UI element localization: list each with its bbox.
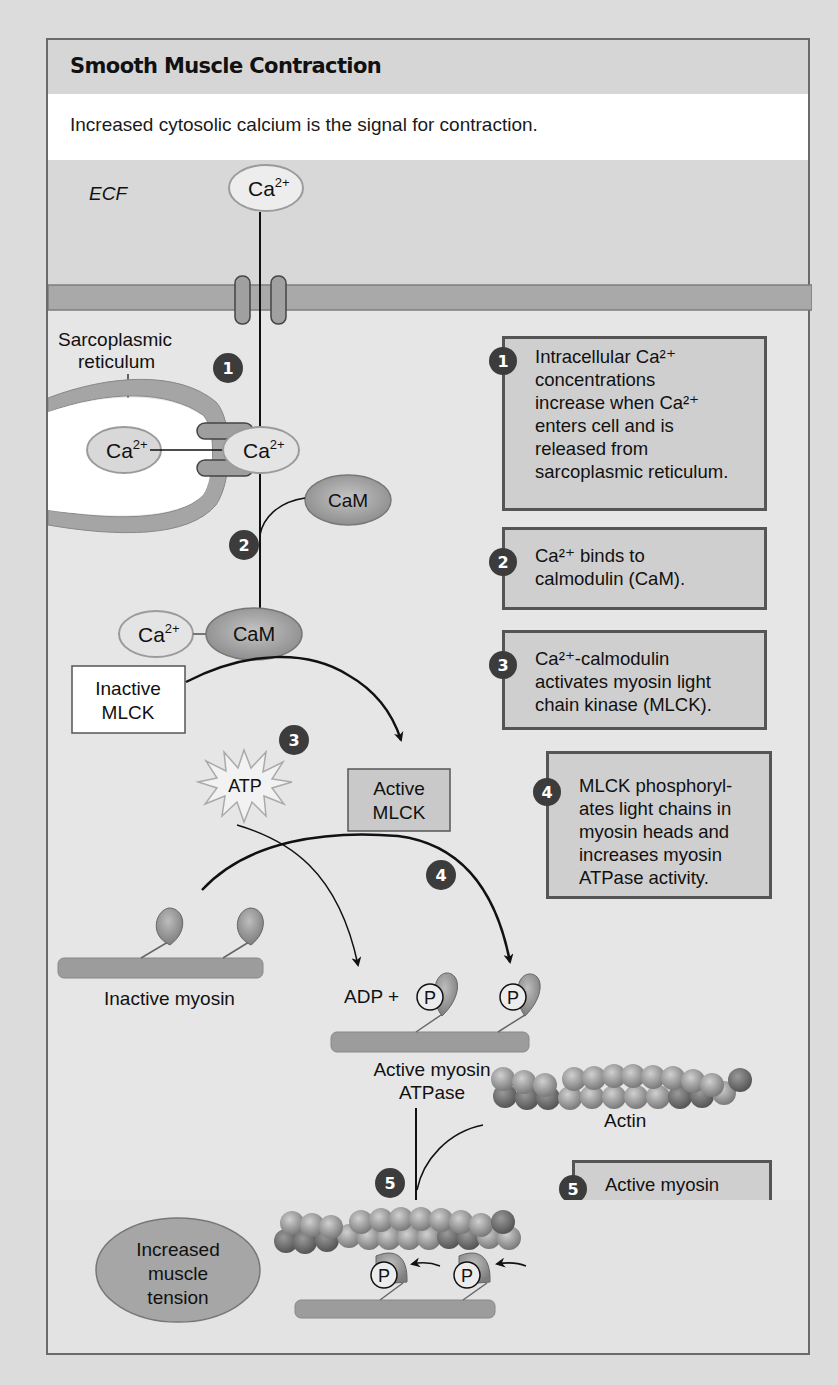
svg-text:tension: tension: [147, 1287, 208, 1308]
diagram-badge-3: 3: [279, 725, 309, 755]
svg-text:P: P: [378, 1266, 390, 1286]
ca-calmodulin-complex: Ca2+ CaM: [119, 608, 302, 660]
step-box-1: 1 Intracellular Ca²⁺concentrationsincrea…: [502, 336, 767, 511]
svg-text:5: 5: [384, 1174, 395, 1193]
myosin-crossbridges: P P: [295, 1253, 526, 1318]
step-4-text: MLCK phosphoryl-ates light chains inmyos…: [579, 760, 759, 889]
phosphate-adp: P: [417, 984, 443, 1010]
svg-text:Active: Active: [373, 778, 425, 799]
atp-hydrolysis-arrow: [237, 825, 358, 965]
adp-label: ADP +: [344, 986, 399, 1007]
diagram-badge-2: 2: [229, 530, 259, 560]
phosphate-myosin: P: [500, 984, 526, 1010]
svg-text:2: 2: [238, 536, 249, 555]
svg-text:MLCK: MLCK: [102, 702, 155, 723]
step-3-text: Ca²⁺-calmodulinactivates myosin lightcha…: [535, 639, 754, 716]
atp-starburst: ATP: [198, 750, 292, 822]
diagram-badge-4: 4: [426, 860, 456, 890]
ca-ion-extracellular: Ca2+: [229, 165, 303, 211]
actin-beads-bound: [274, 1207, 521, 1254]
ca-ion-cytosolic: Ca2+: [223, 427, 299, 473]
calmodulin-free: CaM: [305, 475, 391, 525]
svg-text:P: P: [461, 1266, 473, 1286]
diagram-badge-1: 1: [213, 353, 243, 383]
step-box-2: 2 Ca²⁺ binds tocalmodulin (CaM).: [502, 527, 767, 610]
svg-text:muscle: muscle: [148, 1263, 208, 1284]
svg-text:CaM: CaM: [233, 623, 275, 645]
step-box-5: 5 Active myosincrossbridgesslide along a…: [572, 1160, 772, 1310]
svg-text:Inactive: Inactive: [95, 678, 160, 699]
ca-ion-sr: Ca2+: [87, 427, 161, 473]
cell-membrane: [48, 285, 812, 310]
svg-text:ATP: ATP: [228, 776, 262, 796]
inactive-mlck-box: Inactive MLCK: [72, 666, 185, 733]
sr-label-line2: reticulum: [78, 351, 155, 372]
step-badge-5: 5: [559, 1175, 587, 1203]
svg-text:3: 3: [288, 731, 299, 750]
step-badge-1: 1: [489, 347, 517, 375]
step-box-3: 3 Ca²⁺-calmodulinactivates myosin lightc…: [502, 630, 767, 730]
diagram-badge-5: 5: [375, 1168, 405, 1198]
figure-frame: Smooth Muscle Contraction Increased cyto…: [46, 38, 810, 1203]
ecf-label: ECF: [89, 183, 128, 204]
svg-text:Increased: Increased: [136, 1239, 219, 1260]
active-myosin-label-1: Active myosin: [373, 1059, 490, 1080]
svg-text:P: P: [507, 988, 519, 1008]
inactive-myosin: [58, 908, 263, 978]
step-2-text: Ca²⁺ binds tocalmodulin (CaM).: [535, 536, 754, 590]
step-badge-2: 2: [489, 548, 517, 576]
step-badge-4: 4: [533, 778, 561, 806]
svg-text:P: P: [424, 988, 436, 1008]
svg-text:CaM: CaM: [328, 490, 368, 511]
increased-tension-ellipse: Increased muscle tension: [96, 1218, 260, 1322]
active-myosin-label-2: ATPase: [399, 1082, 465, 1103]
step-1-text: Intracellular Ca²⁺concentrationsincrease…: [535, 345, 754, 483]
pathway-diagram: ECF Ca2+ Sarcoplasmic reticulum: [48, 40, 812, 1205]
inactive-myosin-label: Inactive myosin: [104, 988, 235, 1009]
svg-text:1: 1: [222, 359, 233, 378]
svg-text:4: 4: [435, 866, 446, 885]
sr-label-line1: Sarcoplasmic: [58, 329, 172, 350]
active-mlck-box: Active MLCK: [348, 769, 450, 831]
step-5-text: Active myosincrossbridgesslide along act…: [605, 1169, 759, 1288]
actin-label: Actin: [604, 1110, 646, 1131]
step-badge-3: 3: [489, 651, 517, 679]
svg-text:MLCK: MLCK: [373, 802, 426, 823]
step-box-4: 4 MLCK phosphoryl-ates light chains inmy…: [546, 751, 772, 899]
